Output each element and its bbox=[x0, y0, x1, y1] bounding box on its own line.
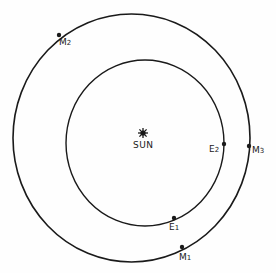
orbit-diagram: SUN E1 E2 M1 M2 M3 bbox=[0, 0, 276, 273]
label-E2: E2 bbox=[209, 145, 219, 154]
point-E1 bbox=[172, 216, 176, 220]
sun-icon bbox=[138, 128, 148, 138]
label-M2: M2 bbox=[59, 38, 71, 47]
orbit-svg bbox=[0, 0, 276, 273]
point-E2 bbox=[222, 142, 226, 146]
label-E1: E1 bbox=[169, 223, 179, 232]
label-M3: M3 bbox=[252, 146, 264, 155]
label-M1: M1 bbox=[179, 253, 191, 262]
point-M1 bbox=[180, 245, 184, 249]
point-M3 bbox=[247, 144, 251, 148]
sun-label: SUN bbox=[133, 141, 154, 150]
